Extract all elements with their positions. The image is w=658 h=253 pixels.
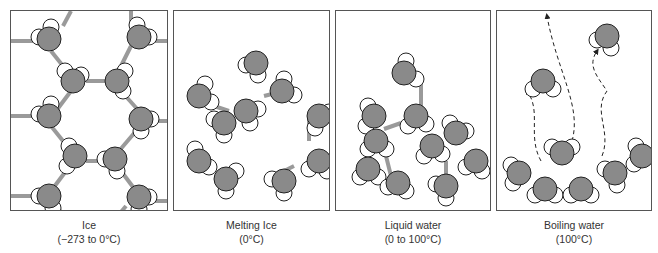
caption-title: Ice — [10, 218, 168, 232]
water-molecules — [352, 53, 490, 206]
water-molecules — [31, 17, 159, 211]
caption-range: (−273 to 0°C) — [10, 232, 168, 246]
melting-ice-diagram — [174, 11, 330, 211]
caption-liquid-water: Liquid water (0 to 100°C) — [335, 218, 491, 246]
caption-range: (0°C) — [173, 232, 330, 246]
caption-boiling-water: Boiling water (100°C) — [496, 218, 652, 246]
caption-ice: Ice (−273 to 0°C) — [10, 218, 168, 246]
water-molecules — [503, 24, 652, 203]
panel-ice — [10, 10, 168, 211]
panel-melting-ice — [173, 10, 330, 211]
caption-title: Liquid water — [335, 218, 491, 232]
liquid-water-diagram — [336, 11, 491, 211]
caption-title: Boiling water — [496, 218, 652, 232]
panel-boiling-water — [496, 10, 652, 211]
caption-title: Melting Ice — [173, 218, 330, 232]
ice-lattice-diagram — [11, 11, 168, 211]
water-molecules — [187, 51, 330, 201]
boiling-water-diagram — [497, 11, 652, 211]
caption-range: (100°C) — [496, 232, 652, 246]
caption-range: (0 to 100°C) — [335, 232, 491, 246]
panel-liquid-water — [335, 10, 491, 211]
caption-melting-ice: Melting Ice (0°C) — [173, 218, 330, 246]
